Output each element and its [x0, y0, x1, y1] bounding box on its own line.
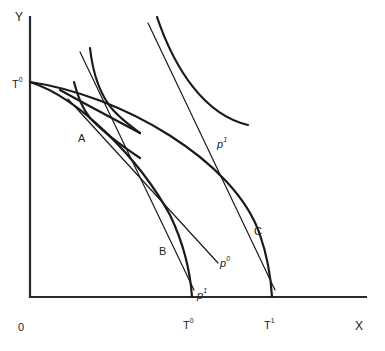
price-line-p1-lower [80, 52, 194, 290]
y-intercept-label-base: T [12, 78, 19, 90]
price-line-p1-upper [148, 23, 275, 290]
inner-ppf-label-base: T [183, 319, 190, 331]
outer-ppf-label: T1 [264, 318, 275, 331]
indifference-curve-a [74, 82, 140, 158]
diagram-canvas [0, 0, 385, 351]
p1-lower-label-sup: 1 [203, 287, 207, 294]
y-axis-label: Y [15, 11, 23, 23]
point-b-label: B [159, 246, 166, 257]
inner-ppf-label-sup: 0 [190, 317, 194, 324]
p1-upper-label: p1 [217, 137, 227, 150]
origin-label: 0 [18, 322, 24, 333]
point-c-label: C [254, 226, 262, 237]
p1-lower-label: p1 [197, 288, 207, 301]
inner-ppf-curve [30, 82, 192, 297]
x-axis-label: X [355, 320, 363, 332]
y-intercept-label: T0 [12, 77, 23, 90]
inner-ppf-label: T0 [183, 318, 194, 331]
outer-ppf-label-base: T [264, 319, 271, 331]
point-a-label: A [78, 133, 85, 144]
p0-label: p0 [220, 256, 230, 269]
outer-ppf-label-sup: 1 [271, 317, 275, 324]
p0-label-sup: 0 [226, 255, 230, 262]
y-intercept-label-sup: 0 [19, 76, 23, 83]
p1-upper-label-sup: 1 [223, 136, 227, 143]
